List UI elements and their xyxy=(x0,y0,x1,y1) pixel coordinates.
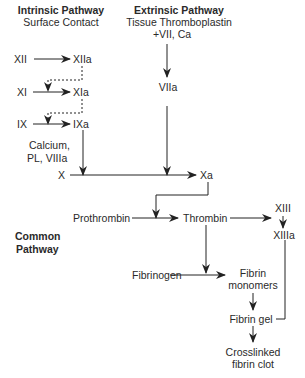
cofactors-label-line1: Calcium, xyxy=(29,139,70,151)
node-crosslinked-line2: fibrin clot xyxy=(232,358,274,370)
cofactors-label-line2: PL, VIIIa xyxy=(27,152,67,164)
intrinsic-pathway-subtitle: Surface Contact xyxy=(23,16,98,28)
node-xiiia: XIIIa xyxy=(273,229,295,241)
node-fibrin-monomers-line1: Fibrin xyxy=(240,267,266,279)
node-xi: XI xyxy=(17,86,27,98)
node-thrombin: Thrombin xyxy=(183,212,227,224)
node-prothrombin: Prothrombin xyxy=(73,212,130,224)
node-ix: IX xyxy=(17,118,27,130)
node-ixa: IXa xyxy=(73,118,89,130)
extrinsic-cofactors: +VII, Ca xyxy=(153,28,191,40)
node-viia: VIIa xyxy=(159,81,178,93)
node-fibrin-gel: Fibrin gel xyxy=(229,313,272,325)
node-crosslinked-line1: Crosslinked xyxy=(226,346,281,358)
intrinsic-pathway-title: Intrinsic Pathway xyxy=(18,4,104,16)
node-xa: Xa xyxy=(200,169,213,181)
node-fibrin-monomers-line2: monomers xyxy=(228,279,278,291)
common-pathway-title-line2: Pathway xyxy=(16,243,59,255)
extrinsic-pathway-title: Extrinsic Pathway xyxy=(134,4,224,16)
extrinsic-pathway-subtitle: Tissue Thromboplastin xyxy=(126,16,232,28)
node-xia: XIa xyxy=(73,86,89,98)
common-pathway-title-line1: Common xyxy=(15,230,61,242)
node-xiia: XIIa xyxy=(73,53,92,65)
node-fibrinogen: Fibrinogen xyxy=(132,269,182,281)
node-xii: XII xyxy=(14,53,27,65)
node-x: X xyxy=(58,169,65,181)
node-xiii: XIII xyxy=(275,202,291,214)
